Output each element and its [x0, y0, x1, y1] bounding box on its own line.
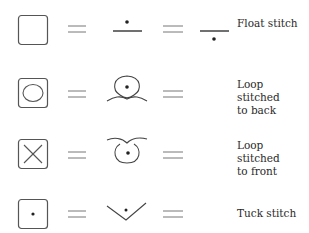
- v-with-dot-icon: [106, 200, 148, 224]
- label-float-stitch: Float stitch: [237, 17, 298, 30]
- equals-icon: [162, 150, 184, 160]
- label-line: Float stitch: [237, 17, 298, 30]
- dot-below-line-icon: [199, 25, 231, 43]
- legend-row-float-stitch: Float stitch: [0, 5, 309, 55]
- equals-icon: [67, 89, 87, 99]
- empty-square-icon: [17, 14, 49, 46]
- label-line: to front: [237, 165, 309, 178]
- square-with-dot-icon: [17, 198, 49, 230]
- legend-row-loop-to-back: Loop stitched to back: [0, 68, 309, 118]
- equals-icon: [162, 89, 184, 99]
- label-line: Loop stitched: [237, 78, 309, 104]
- label-tuck-stitch: Tuck stitch: [237, 207, 296, 220]
- label-line: Tuck stitch: [237, 207, 296, 220]
- label-line: Loop stitched: [237, 139, 309, 165]
- equals-icon: [67, 209, 87, 219]
- square-with-x-icon: [17, 138, 49, 170]
- legend-row-loop-to-front: Loop stitched to front: [0, 129, 309, 179]
- loop-back-icon: [106, 73, 148, 103]
- label-loop-to-back: Loop stitched to back: [237, 78, 309, 117]
- label-line: to back: [237, 104, 309, 117]
- equals-icon: [162, 209, 184, 219]
- loop-front-icon: [106, 135, 148, 167]
- legend-row-tuck-stitch: Tuck stitch: [0, 190, 309, 233]
- square-with-ellipse-icon: [17, 77, 49, 109]
- label-loop-to-front: Loop stitched to front: [237, 139, 309, 178]
- dot-above-line-icon: [112, 15, 144, 35]
- equals-icon: [67, 150, 87, 160]
- equals-icon: [67, 24, 87, 34]
- equals-icon: [162, 24, 184, 34]
